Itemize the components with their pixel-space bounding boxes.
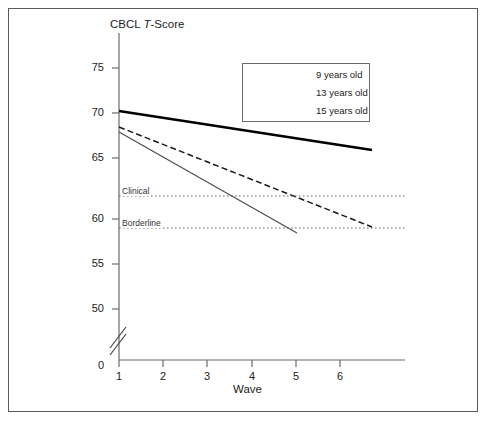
x-tick-label-4: 4	[242, 370, 262, 382]
y-axis-title: CBCL T-Score	[110, 18, 184, 30]
y-tick-label-65: 65	[78, 151, 104, 163]
y-tick-label-75: 75	[78, 61, 104, 73]
reference-label-borderline: Borderline	[121, 218, 162, 228]
y-axis-title-suffix: -Score	[150, 18, 184, 30]
legend-label-13-years-old: 13 years old	[316, 87, 368, 98]
x-tick-label-6: 6	[330, 370, 350, 382]
series-line-13-years-old	[119, 127, 372, 227]
y-tick-label-70: 70	[78, 106, 104, 118]
x-tick-label-5: 5	[286, 370, 306, 382]
y-tick-label-60: 60	[78, 212, 104, 224]
legend-label-15-years-old: 15 years old	[316, 105, 368, 116]
y-axis-break-icon	[110, 327, 126, 355]
x-tick-label-1: 1	[109, 370, 129, 382]
x-axis-title: Wave	[233, 383, 262, 395]
y-tick-label-0: 0	[78, 359, 104, 371]
legend-label-9-years-old: 9 years old	[316, 69, 362, 80]
x-tick-label-3: 3	[197, 370, 217, 382]
reference-label-clinical: Clinical	[121, 186, 150, 196]
y-tick-label-50: 50	[78, 302, 104, 314]
y-axis-title-prefix: CBCL	[110, 18, 143, 30]
x-tick-label-2: 2	[153, 370, 173, 382]
y-tick-label-55: 55	[78, 257, 104, 269]
chart-figure: CBCL T-Score Wave 75 70 65 60 55 50 0 1 …	[0, 0, 490, 422]
